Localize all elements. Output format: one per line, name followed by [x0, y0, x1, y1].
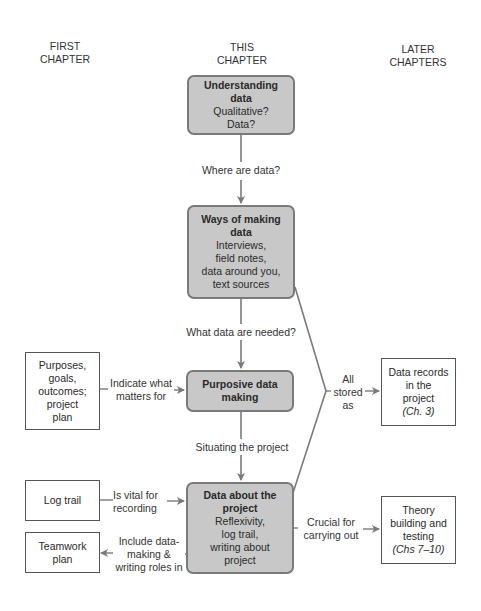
box-theory-building: Theory building and testing (Chs 7–10): [381, 496, 456, 564]
label-what-data-needed: What data are needed?: [176, 326, 306, 339]
label-all-stored-as: All stored as: [331, 373, 365, 412]
header-later-chapters: LATER CHAPTERS: [378, 43, 458, 69]
label-include-roles: Include data- making & writing roles in: [113, 535, 185, 574]
box-teamwork-plan: Teamwork plan: [25, 532, 100, 573]
box-data-records: Data records in the project (Ch. 3): [381, 358, 456, 426]
box-ways-of-making-data: Ways of making data Interviews, field no…: [187, 205, 295, 299]
box-understanding-data: Understanding data Qualitative? Data?: [187, 75, 295, 135]
label-indicate-what-matters: Indicate what matters for: [108, 377, 174, 403]
label-situating-project: Situating the project: [186, 441, 298, 454]
header-this-chapter: THIS CHAPTER: [202, 41, 282, 67]
box-log-trail: Log trail: [25, 480, 100, 521]
header-first-chapter: FIRST CHAPTER: [25, 40, 105, 66]
box-data-about-project: Data about the project Reflexivity, log …: [186, 482, 294, 574]
box-purposes-goals: Purposes, goals, outcomes; project plan: [25, 352, 100, 430]
label-crucial-for: Crucial for carrying out: [300, 516, 362, 542]
label-where-are-data: Where are data?: [186, 164, 296, 177]
box-purposive-data-making: Purposive data making: [186, 370, 294, 412]
label-vital-for-recording: Is vital for recording: [113, 489, 167, 515]
